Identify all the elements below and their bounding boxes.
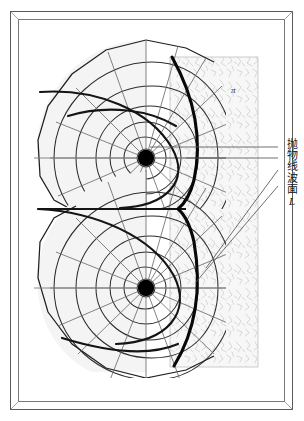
figure-canvas: π 抛 物 线 波 面 L: [0, 0, 304, 421]
pi-medium-label: π: [231, 85, 236, 95]
stippled-medium-region: [170, 57, 258, 367]
source-point-lower: [138, 280, 154, 296]
callout-char-5: 面: [287, 184, 298, 195]
callout-label-parabolic-wavefront: 抛 物 线 波 面 L: [281, 139, 303, 207]
source-point-upper: [138, 150, 154, 166]
callout-char-3: 线: [287, 161, 298, 172]
curve-label-L: L: [289, 195, 295, 207]
parabolic-wavefront-figure: [0, 0, 304, 421]
